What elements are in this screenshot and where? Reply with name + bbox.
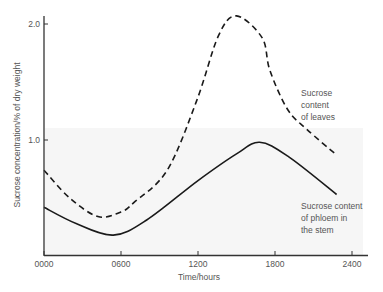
x-tick-label: 0000 [35, 259, 54, 269]
annotation-line: of phloem in [301, 213, 348, 223]
y-axis-title: Sucrose concentration/% of dry weight [12, 62, 22, 208]
annotation-line: Sucrose content [301, 201, 363, 211]
x-tick-label: 1800 [266, 259, 285, 269]
annotation-line: the stem [301, 225, 334, 235]
plot-tint [45, 128, 363, 255]
x-tick-label: 1200 [189, 259, 208, 269]
y-ticks: 1.02.0 [28, 19, 48, 145]
x-tick-label: 2400 [343, 259, 362, 269]
x-axis-title: Time/hours [178, 272, 220, 282]
annotation-line: content [301, 100, 330, 110]
y-tick-label: 2.0 [28, 19, 40, 29]
annotation-line: Sucrose [301, 88, 332, 98]
y-tick-label: 1.0 [28, 135, 40, 145]
leaves-annotation: Sucrosecontentof leaves [301, 88, 335, 122]
x-tick-label: 0600 [112, 259, 131, 269]
line-chart: 00000600120018002400 1.02.0 Time/hours S… [0, 0, 383, 292]
annotation-line: of leaves [301, 112, 335, 122]
